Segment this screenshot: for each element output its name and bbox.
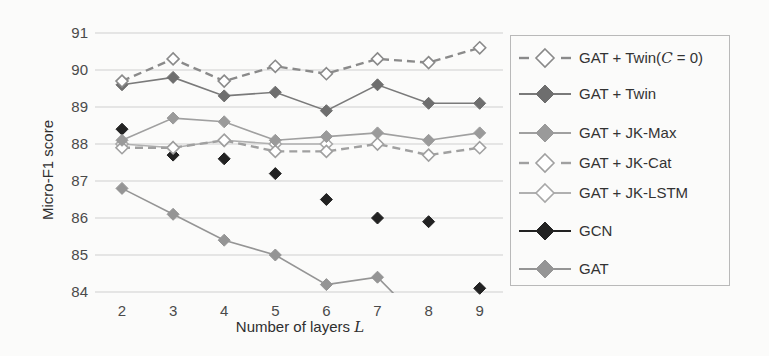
x-tick-label: 9 (476, 302, 484, 319)
legend-swatch (517, 122, 573, 144)
x-axis-title-var: L (353, 318, 364, 336)
legend-item-gat-jk-max[interactable]: GAT + JK-Max (511, 122, 729, 144)
legend-label: GAT + JK-Max (579, 124, 676, 141)
legend-item-gat-jk-cat[interactable]: GAT + JK-Cat (511, 152, 729, 174)
y-tick-label: 85 (71, 246, 88, 263)
legend-marker (536, 85, 554, 103)
data-point-gat-twin (269, 86, 281, 98)
legend: GAT + Twin(C = 0) GAT + Twin GAT + JK-Ma… (510, 35, 730, 286)
legend-item-gat-twin-c0[interactable]: GAT + Twin(C = 0) (511, 47, 729, 69)
x-axis-title: Number of layers L (236, 318, 364, 336)
legend-label: GAT + JK-Cat (579, 154, 671, 171)
data-point-gat (116, 182, 128, 194)
legend-marker (536, 222, 554, 240)
x-tick-label: 4 (220, 302, 228, 319)
x-tick-label: 7 (373, 302, 381, 319)
data-point-gat (269, 249, 281, 261)
legend-label-var: C (661, 49, 672, 67)
data-point-gat (320, 279, 332, 291)
y-axis: 8485868788899091 (71, 24, 88, 300)
legend-label: GAT + Twin(C = 0) (579, 49, 703, 67)
x-axis-title-text: Number of layers (236, 318, 354, 335)
legend-swatch (517, 47, 573, 69)
y-tick-label: 90 (71, 61, 88, 78)
legend-item-gat-jk-lstm[interactable]: GAT + JK-LSTM (511, 182, 729, 204)
y-tick-label: 88 (71, 135, 88, 152)
data-point-gat-jk-max (167, 112, 179, 124)
data-point-gat-twin-c-0 (474, 42, 486, 54)
data-point-gcn (320, 194, 332, 206)
gridlines (95, 33, 503, 292)
data-point-gat-twin-c-0 (372, 53, 384, 65)
x-tick-label: 5 (271, 302, 279, 319)
data-point-gat-twin-c-0 (167, 53, 179, 65)
x-tick-label: 8 (424, 302, 432, 319)
legend-label-prefix: GAT + Twin( (579, 49, 661, 66)
data-point-gat-jk-max (372, 127, 384, 139)
x-tick-label: 6 (322, 302, 330, 319)
legend-swatch (517, 258, 573, 280)
legend-item-gcn[interactable]: GCN (511, 220, 729, 242)
legend-label: GAT (579, 260, 609, 277)
legend-label: GAT + Twin (579, 85, 656, 102)
y-tick-label: 86 (71, 209, 88, 226)
legend-marker (536, 154, 554, 172)
legend-swatch (517, 152, 573, 174)
data-point-gcn (372, 212, 384, 224)
legend-label: GCN (579, 222, 612, 239)
y-tick-label: 84 (71, 283, 88, 300)
legend-marker (536, 49, 554, 67)
legend-label-suffix: = 0) (673, 49, 703, 66)
legend-item-gat[interactable]: GAT (511, 258, 729, 280)
data-point-gat-jk-max (218, 116, 230, 128)
data-point-gat (218, 234, 230, 246)
y-tick-label: 87 (71, 172, 88, 189)
y-tick-label: 89 (71, 98, 88, 115)
data-point-gat-twin (218, 90, 230, 102)
data-point-gat-jk-cat (269, 145, 281, 157)
series-markers (116, 42, 486, 294)
legend-swatch (517, 83, 573, 105)
data-point-gcn (116, 123, 128, 135)
x-axis: 23456789 (118, 302, 484, 319)
legend-marker (536, 124, 554, 142)
y-tick-label: 91 (71, 24, 88, 41)
data-point-gat-twin-c-0 (423, 57, 435, 69)
legend-marker (536, 184, 554, 202)
legend-swatch (517, 182, 573, 204)
data-point-gcn (269, 168, 281, 180)
data-point-gat-jk-cat (423, 149, 435, 161)
data-point-gat-twin (167, 71, 179, 83)
data-point-gat-jk-max (474, 127, 486, 139)
y-axis-title: Micro-F1 score (39, 120, 56, 220)
x-tick-label: 3 (169, 302, 177, 319)
data-point-gat-twin-c-0 (218, 75, 230, 87)
data-point-gcn (218, 153, 230, 165)
data-point-gat-jk-cat (320, 145, 332, 157)
x-tick-label: 2 (118, 302, 126, 319)
data-point-gat-jk-max (320, 131, 332, 143)
data-point-gat-jk-cat (372, 138, 384, 150)
legend-marker (536, 260, 554, 278)
legend-label: GAT + JK-LSTM (579, 184, 688, 201)
legend-swatch (517, 220, 573, 242)
series-lines (122, 48, 480, 329)
legend-item-gat-twin[interactable]: GAT + Twin (511, 83, 729, 105)
data-point-gat-twin (372, 79, 384, 91)
